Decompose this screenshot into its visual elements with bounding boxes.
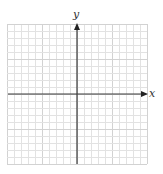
coordinate-plane: y x [0,0,163,174]
x-axis-arrow-icon [141,91,148,97]
y-axis-label: y [73,9,79,20]
x-axis-label: x [149,88,155,99]
coordinate-plane-svg [0,0,163,174]
